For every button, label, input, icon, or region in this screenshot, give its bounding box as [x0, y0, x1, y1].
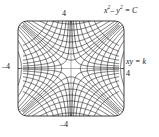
- axis-tick-label-left: –4: [2, 63, 10, 71]
- curve-family-label-k: xy = k: [126, 58, 146, 66]
- axis-tick-label-right: 4: [126, 70, 130, 78]
- curve-family-label-c: x2– y2 = C: [104, 5, 137, 15]
- curve-label-c-mid: – y: [110, 6, 120, 15]
- curve-label-c-exp2: 2: [120, 4, 123, 10]
- hyperbola-figure: [0, 0, 159, 137]
- axis-tick-label-bottom: –4: [60, 121, 68, 129]
- curve-label-c-tail: = C: [125, 6, 138, 15]
- axis-tick-label-top: 4: [62, 10, 66, 18]
